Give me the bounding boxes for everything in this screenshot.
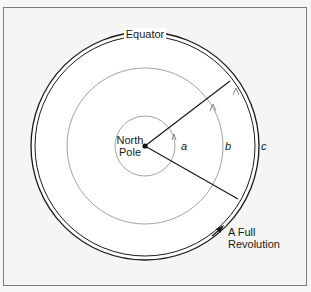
arc-a-label: a xyxy=(181,140,187,152)
arc-b-label: b xyxy=(225,140,231,152)
rotation-diagram: Equator North Pole a b c A Full Revoluti… xyxy=(0,0,311,292)
north-pole-label-line1: North xyxy=(117,134,144,146)
revolution-label-line1: A Full xyxy=(228,226,256,238)
north-pole-label-line2: Pole xyxy=(119,146,141,158)
revolution-label-line2: Revolution xyxy=(228,238,280,250)
arc-c-label: c xyxy=(261,140,267,152)
equator-label: Equator xyxy=(126,28,165,40)
